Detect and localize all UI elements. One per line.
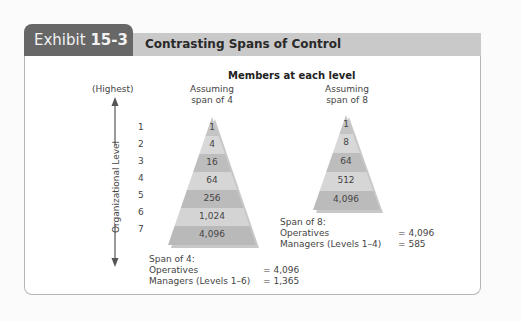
- span8-managers-label: Managers (Levels 1–4): [280, 239, 398, 250]
- span8-value: 4,096: [321, 194, 371, 204]
- span4-value: 4: [192, 139, 232, 149]
- axis-label: Organizational Level: [111, 137, 121, 237]
- span4-caption-line2: span of 4: [182, 95, 242, 106]
- span4-value: 4,096: [187, 229, 237, 239]
- level-number: 3: [138, 156, 144, 166]
- span8-value: 512: [326, 175, 366, 185]
- span8-operatives-value: = 4,096: [398, 228, 434, 239]
- span4-value: 64: [192, 175, 232, 185]
- span8-operatives-label: Operatives: [280, 228, 398, 239]
- span4-value: 256: [192, 193, 232, 203]
- span4-summary-heading: Span of 4:: [149, 254, 299, 265]
- span8-caption-line1: Assuming: [317, 84, 377, 95]
- span4-operatives-label: Operatives: [149, 265, 263, 276]
- span8-caption: Assuming span of 8: [317, 84, 377, 106]
- span8-value: 8: [326, 137, 366, 147]
- span4-value: 16: [192, 157, 232, 167]
- level-number: 7: [138, 224, 144, 234]
- span4-caption-line1: Assuming: [182, 84, 242, 95]
- exhibit-tab: Exhibit 15-3: [24, 24, 133, 56]
- span8-value: 64: [326, 156, 366, 166]
- span8-managers-value: = 585: [398, 239, 426, 250]
- span4-value: 1: [192, 122, 232, 132]
- span4-value: 1,024: [187, 211, 237, 221]
- members-title: Members at each level: [228, 70, 355, 81]
- span8-summary: Span of 8: Operatives = 4,096 Managers (…: [280, 217, 434, 250]
- level-number: 6: [138, 207, 144, 217]
- span8-value: 1: [326, 119, 366, 129]
- span4-managers-value: = 1,365: [263, 276, 299, 287]
- span4-operatives-value: = 4,096: [263, 265, 299, 276]
- span8-summary-heading: Span of 8:: [280, 217, 434, 228]
- level-number: 2: [138, 139, 144, 149]
- exhibit-title: Contrasting Spans of Control: [133, 33, 481, 56]
- span4-summary: Span of 4: Operatives = 4,096 Managers (…: [149, 254, 299, 287]
- level-number: 5: [138, 190, 144, 200]
- level-number: 1: [138, 122, 144, 132]
- level-number: 4: [138, 173, 144, 183]
- span8-caption-line2: span of 8: [317, 95, 377, 106]
- exhibit-prefix: Exhibit: [34, 31, 90, 49]
- span4-managers-label: Managers (Levels 1–6): [149, 276, 263, 287]
- exhibit-number: 15-3: [90, 31, 128, 49]
- axis-top-label: (Highest): [92, 84, 133, 95]
- span4-caption: Assuming span of 4: [182, 84, 242, 106]
